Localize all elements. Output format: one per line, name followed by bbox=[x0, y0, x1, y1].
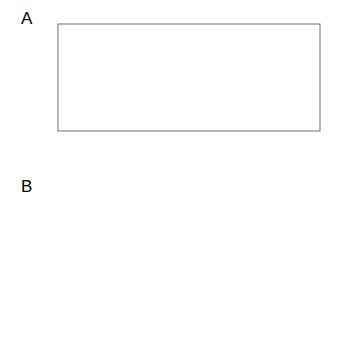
panel-b-plot bbox=[0, 170, 337, 340]
panel-b: B bbox=[0, 170, 337, 340]
panel-a-plot bbox=[0, 0, 337, 170]
figure-container: A B bbox=[0, 0, 337, 340]
plot-frame bbox=[58, 24, 320, 131]
panel-a: A bbox=[0, 0, 337, 170]
